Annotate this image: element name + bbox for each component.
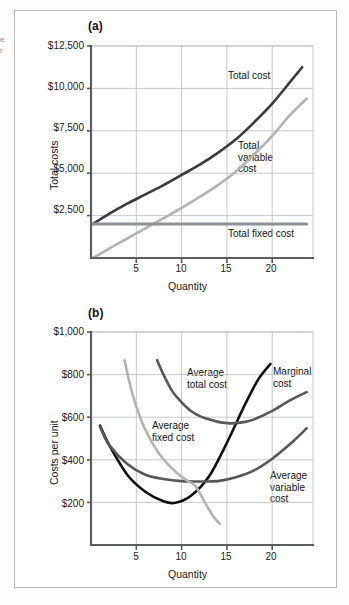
plot-drawing-layer (0, 0, 349, 605)
figure-container: er (a) Total costs $12,500 $10,000 $7,50… (0, 0, 349, 605)
